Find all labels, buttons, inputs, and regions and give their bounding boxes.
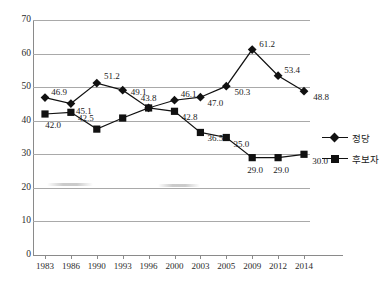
data-label-jeongdang-2009: 61.2 <box>259 39 275 48</box>
data-point-marker <box>275 154 282 161</box>
data-point-marker <box>171 108 178 115</box>
data-point-marker <box>41 93 50 102</box>
data-point-marker <box>222 82 231 91</box>
data-label-jeongdang-1983: 46.9 <box>51 87 67 96</box>
data-point-marker <box>41 110 48 117</box>
data-point-marker <box>145 104 152 111</box>
data-label-hubija-1986: 42.5 <box>78 114 94 123</box>
data-point-marker <box>249 154 256 161</box>
data-label-hubija-2003: 36.5 <box>208 134 224 143</box>
legend-item-jeongdang[interactable]: 정당 <box>322 127 379 148</box>
data-point-marker <box>118 86 127 95</box>
data-point-marker <box>93 126 100 133</box>
data-label-jeongdang-1990: 51.2 <box>104 72 120 81</box>
diamond-marker-icon <box>322 133 348 143</box>
data-label-jeongdang-2014: 48.8 <box>313 93 329 102</box>
square-marker-icon <box>322 154 348 164</box>
data-label-hubija-1983: 42.0 <box>45 121 61 130</box>
data-point-marker <box>223 134 230 141</box>
data-point-marker <box>67 109 74 116</box>
legend-label-hubija: 후보자 <box>352 152 379 166</box>
data-label-hubija-2012: 29.0 <box>273 165 289 174</box>
data-point-marker <box>119 114 126 121</box>
data-point-marker <box>300 87 309 96</box>
data-label-hubija-2005: 35.0 <box>233 139 249 148</box>
chart-container: 010203040506070 198319861990199319962000… <box>0 0 380 288</box>
data-point-marker <box>170 96 179 105</box>
data-point-marker <box>300 151 307 158</box>
data-point-marker <box>196 93 205 102</box>
data-label-jeongdang-2000: 46.1 <box>181 90 197 99</box>
data-label-jeongdang-1996: 43.8 <box>141 93 157 102</box>
data-label-hubija-2000: 42.8 <box>182 113 198 122</box>
data-label-jeongdang-2003: 47.0 <box>208 99 224 108</box>
data-label-jeongdang-2012: 53.4 <box>284 65 300 74</box>
legend-item-hubija[interactable]: 후보자 <box>322 148 379 169</box>
data-point-marker <box>197 129 204 136</box>
data-label-jeongdang-2005: 50.3 <box>234 88 250 97</box>
legend-label-jeongdang: 정당 <box>352 131 370 145</box>
data-label-hubija-2009: 29.0 <box>247 165 263 174</box>
legend: 정당 후보자 <box>322 127 379 169</box>
